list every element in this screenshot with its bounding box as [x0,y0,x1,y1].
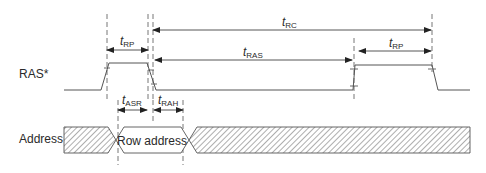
trp-right-dimension: tRP [359,36,431,51]
row-address-label: Row address [117,134,187,148]
svg-text:tRAS: tRAS [243,45,263,60]
ras-waveform [64,63,470,90]
timing-diagram: tRC tRP tRAS tRP RAS* tASR tRAH Address … [0,0,486,173]
svg-text:tRC: tRC [282,15,297,30]
trah-dimension: tRAH [154,93,183,110]
svg-text:tASR: tASR [122,93,142,108]
trp-left-dimension: tRP [107,34,148,50]
address-signal-label: Address [19,132,63,146]
address-invalid-left [64,127,116,153]
svg-text:tRAH: tRAH [158,93,178,108]
tras-dimension: tRAS [155,45,352,60]
tasr-dimension: tASR [118,93,147,110]
svg-text:tRP: tRP [120,34,134,49]
trc-dimension: tRC [153,15,431,30]
address-invalid-right [189,127,470,153]
ras-signal-label: RAS* [19,67,49,81]
svg-text:tRP: tRP [389,36,403,51]
